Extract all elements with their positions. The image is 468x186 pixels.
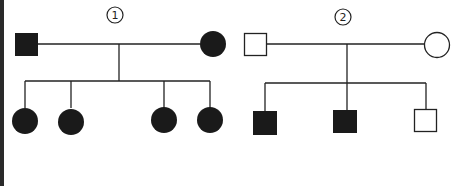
family-2-child-2-affected-male [333,110,357,133]
family-1-mother-affected-female [200,31,226,57]
family-2-child-1-affected-male [253,111,277,135]
family-1-child-1-affected-female [12,108,38,134]
family-1-child-3-affected-female [151,107,177,133]
left-border [0,0,4,186]
family-1-label: 1 [112,9,119,22]
family-1-child-2-affected-female [58,109,84,135]
family-1: 1 [12,7,226,135]
family-2-child-3-unaffected-male [415,110,437,132]
family-2-father-unaffected-male [245,34,267,56]
family-2: 2 [245,9,450,135]
family-2-label: 2 [340,11,347,24]
family-2-mother-unaffected-female [425,33,450,58]
family-1-father-affected-male [15,33,38,56]
pedigree-diagram: 1 2 [0,0,468,186]
family-1-child-4-affected-female [197,107,223,133]
